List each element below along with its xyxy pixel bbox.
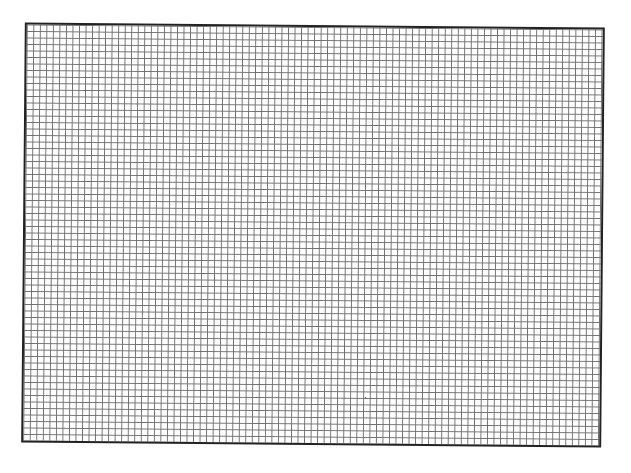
- grid-paper-sheet: [21, 22, 605, 447]
- grid-lines: [23, 24, 603, 445]
